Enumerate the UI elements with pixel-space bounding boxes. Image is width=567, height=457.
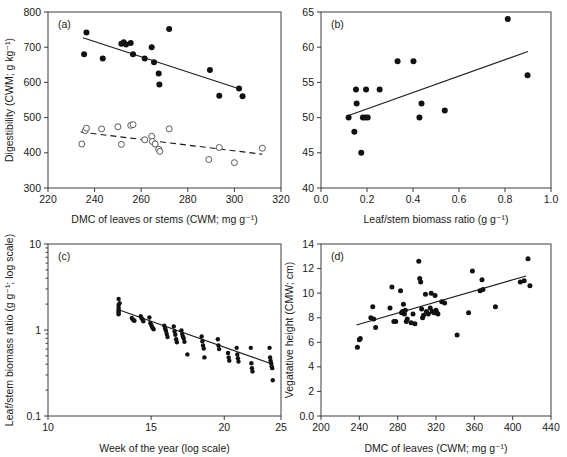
- data-point: [249, 346, 253, 350]
- y-tick-label: 40: [302, 182, 314, 194]
- data-point: [419, 101, 425, 107]
- y-tick-label: 45: [302, 146, 314, 158]
- data-point: [132, 319, 136, 323]
- data-point: [175, 340, 179, 344]
- y-tick-label: 14: [302, 238, 314, 250]
- data-point: [157, 148, 163, 154]
- x-tick-label: 320: [427, 421, 445, 433]
- data-point: [173, 333, 177, 337]
- data-point: [79, 141, 85, 147]
- y-tick-label: 8: [308, 311, 314, 323]
- y-tick-label: 4: [308, 360, 314, 372]
- x-tick-label: 0.0: [314, 193, 329, 205]
- plot-area-c: 101520250.1110(c)Week of the year (log s…: [0, 226, 290, 457]
- data-point: [398, 288, 403, 293]
- y-tick-label: 0.0: [299, 410, 314, 422]
- series-1: [79, 122, 266, 166]
- data-point: [156, 82, 162, 88]
- data-point: [142, 137, 148, 143]
- data-point: [363, 86, 369, 92]
- data-point: [377, 86, 383, 92]
- y-tick-label: 500: [23, 111, 41, 123]
- data-point: [172, 324, 176, 328]
- y-tick-label: 50: [302, 111, 314, 123]
- y-tick-label: 800: [23, 6, 41, 18]
- data-point: [455, 332, 460, 337]
- data-point: [480, 287, 485, 292]
- data-point: [166, 26, 172, 32]
- trend-line: [83, 38, 241, 90]
- data-point: [182, 340, 186, 344]
- series-0: [346, 16, 531, 156]
- data-point: [371, 316, 376, 321]
- y-tick-label: 10: [29, 238, 41, 250]
- data-point: [115, 124, 121, 130]
- data-point: [433, 293, 438, 298]
- trend-line: [349, 51, 528, 115]
- data-point: [466, 310, 471, 315]
- data-point: [227, 358, 231, 362]
- x-tick-label: 280: [179, 193, 197, 205]
- x-tick-label: 240: [86, 193, 104, 205]
- x-tick-label: 10: [42, 421, 54, 433]
- x-axis-title: DMC of leaves (CWM; mg g⁻¹): [364, 442, 507, 454]
- data-point: [156, 71, 162, 77]
- y-tick-label: 700: [23, 41, 41, 53]
- panel-letter: (c): [58, 250, 70, 262]
- x-tick-label: 220: [39, 193, 57, 205]
- data-point: [202, 355, 206, 359]
- data-point: [130, 122, 136, 128]
- data-point: [353, 86, 359, 92]
- data-point: [527, 283, 532, 288]
- plot-frame: [48, 12, 281, 188]
- data-point: [130, 51, 136, 57]
- data-point: [217, 347, 221, 351]
- data-point: [416, 259, 421, 264]
- panel-a: 220240260280300320300400500600700800(a)D…: [0, 0, 290, 228]
- x-tick-label: 0.6: [452, 193, 467, 205]
- data-point: [147, 315, 151, 319]
- data-point: [166, 126, 172, 132]
- data-point: [358, 150, 364, 156]
- data-point: [231, 160, 237, 166]
- data-point: [395, 58, 401, 64]
- data-point: [200, 339, 204, 343]
- data-point: [116, 297, 120, 301]
- y-tick-label: 600: [23, 76, 41, 88]
- data-point: [116, 312, 120, 316]
- x-tick-label: 360: [466, 421, 484, 433]
- data-point: [403, 308, 408, 313]
- plot-area-d: 2002402803203604004400.02468101214(d)DMC…: [283, 226, 567, 457]
- data-point: [83, 29, 89, 35]
- panel-b: 0.00.20.40.60.81.0404550556065(b)Leaf/st…: [283, 0, 567, 228]
- data-point: [236, 359, 240, 363]
- data-point: [393, 319, 398, 324]
- data-point: [401, 302, 406, 307]
- data-point: [346, 115, 352, 121]
- y-axis-title: Leaf/stem biomass ratio (g g⁻¹; log scal…: [3, 234, 15, 426]
- data-point: [271, 378, 275, 382]
- y-tick-label: 300: [23, 182, 41, 194]
- data-point: [185, 352, 189, 356]
- data-point: [142, 55, 148, 61]
- data-point: [470, 269, 475, 274]
- series-0: [81, 26, 245, 99]
- y-tick-label: 2: [308, 385, 314, 397]
- x-tick-label: 20: [218, 421, 230, 433]
- data-point: [351, 129, 357, 135]
- data-point: [435, 312, 440, 317]
- data-point: [207, 67, 213, 73]
- x-tick-label: 260: [132, 193, 150, 205]
- series-0: [116, 297, 275, 383]
- panel-letter: (a): [58, 18, 71, 30]
- plot-area-a: 220240260280300320300400500600700800(a)D…: [0, 0, 290, 228]
- x-tick-label: 200: [312, 421, 330, 433]
- data-point: [442, 300, 447, 305]
- panel-letter: (b): [331, 18, 344, 30]
- y-axis-title: Digestibility (CWM; g kg⁻¹): [3, 38, 15, 162]
- data-point: [236, 85, 242, 91]
- data-point: [525, 72, 531, 78]
- data-point: [216, 145, 222, 151]
- plot-area-b: 0.00.20.40.60.81.0404550556065(b)Leaf/st…: [283, 0, 567, 228]
- data-point: [411, 312, 416, 317]
